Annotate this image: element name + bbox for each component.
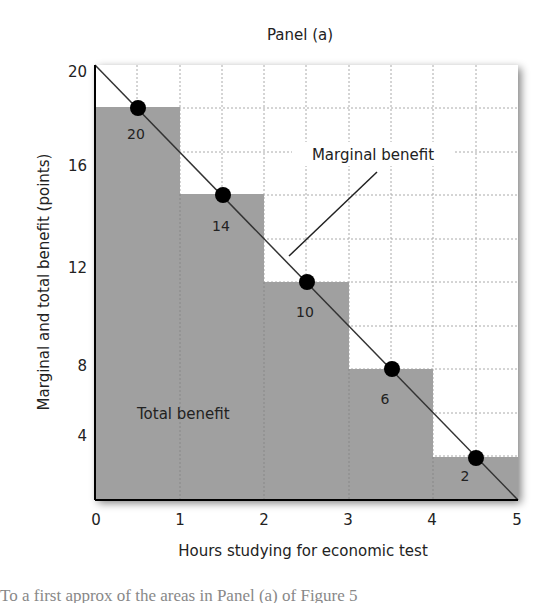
svg-text:10: 10 — [296, 304, 314, 320]
svg-text:1: 1 — [175, 511, 185, 529]
svg-text:2: 2 — [259, 511, 269, 529]
svg-text:0: 0 — [91, 511, 101, 529]
svg-text:20: 20 — [127, 126, 145, 142]
svg-text:3: 3 — [343, 511, 353, 529]
x-axis-ticks: 0 1 2 3 4 5 — [91, 511, 522, 529]
total-benefit-label: Total benefit — [136, 405, 230, 423]
marginal-benefit-label: Marginal benefit — [312, 146, 434, 164]
svg-text:2: 2 — [461, 468, 470, 484]
svg-text:6: 6 — [381, 391, 390, 407]
svg-text:14: 14 — [212, 218, 230, 234]
x-axis-label: Hours studying for economic test — [178, 542, 428, 560]
caption-text: To a first approx of the areas in Panel … — [0, 586, 553, 603]
svg-text:12: 12 — [68, 259, 87, 277]
chart: Panel (a) 20 1 — [0, 0, 553, 586]
svg-text:4: 4 — [427, 511, 437, 529]
svg-text:8: 8 — [77, 357, 87, 375]
y-axis-label: Marginal and total benefit (points) — [35, 154, 53, 411]
svg-text:4: 4 — [77, 427, 87, 445]
svg-text:20: 20 — [68, 63, 87, 81]
plot-area: 20 14 10 6 2 — [95, 65, 518, 500]
y-axis-ticks: 20 16 12 8 4 — [68, 63, 87, 445]
svg-text:5: 5 — [512, 511, 522, 529]
svg-text:16: 16 — [68, 157, 87, 175]
chart-title: Panel (a) — [267, 26, 333, 44]
